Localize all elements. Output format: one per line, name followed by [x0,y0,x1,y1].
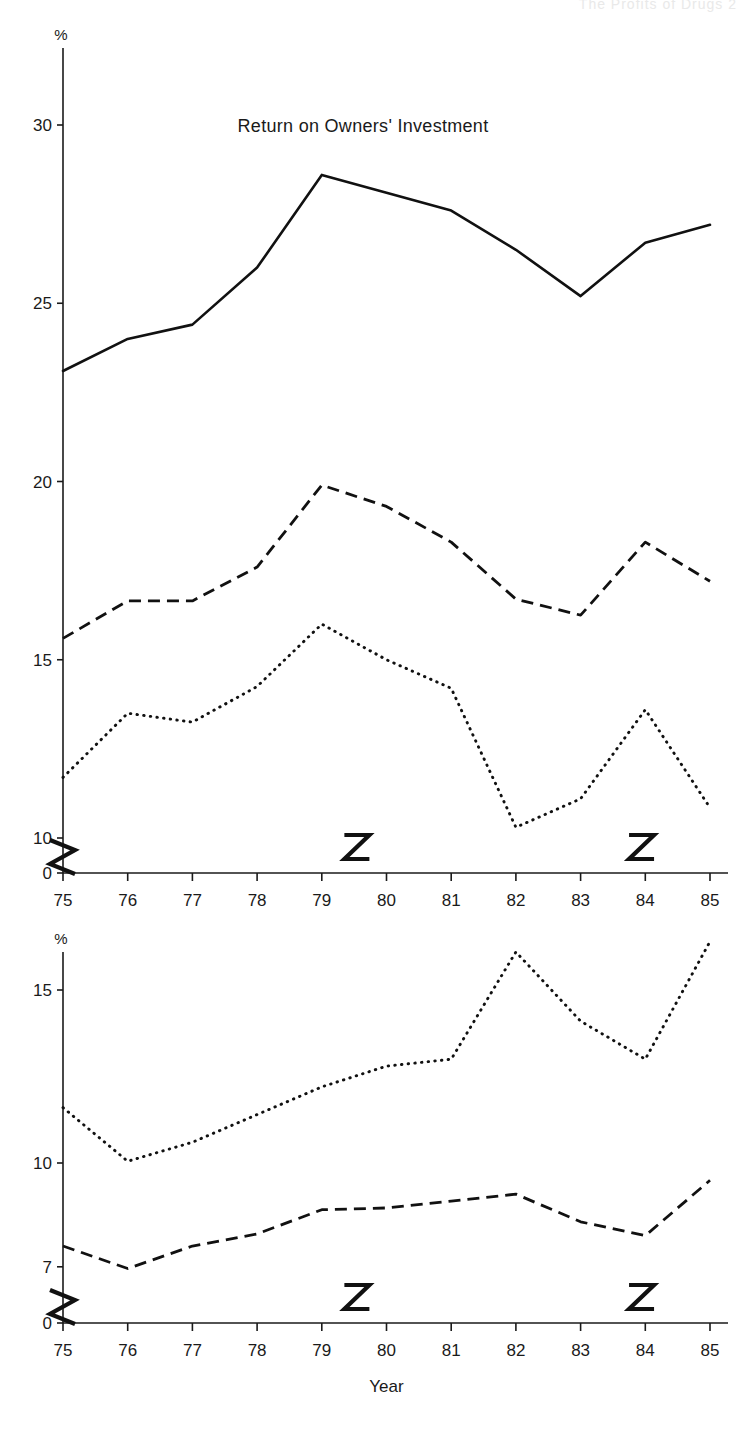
x-tick-label: 85 [701,1341,720,1360]
chart-bottom: %1510707576777879808182838485Year [0,930,755,1447]
y-axis-break-icon [50,840,75,874]
x-axis-break-icon [344,835,369,859]
y-tick-label: 25 [33,294,52,313]
x-axis-title: Year [369,1377,404,1396]
series-line-dotted [63,942,710,1162]
x-tick-label: 76 [118,1341,137,1360]
x-axis-title: Year [369,927,404,928]
x-tick-label: 77 [183,891,202,910]
x-tick-label: 84 [636,1341,655,1360]
x-tick-label: 83 [571,1341,590,1360]
y-tick-label: 20 [33,473,52,492]
x-tick-label: 78 [248,891,267,910]
y-tick-label: 7 [43,1258,52,1277]
x-tick-label: 81 [442,891,461,910]
chart-top: %302520151007576777879808182838485YearRe… [0,18,755,928]
y-tick-label: 30 [33,116,52,135]
x-tick-label: 80 [377,1341,396,1360]
y-axis-break-icon [50,1290,75,1324]
page: The Profits of Drugs 2 %3025201510075767… [0,0,755,1447]
y-tick-label: 10 [33,829,52,848]
y-tick-label: 0 [43,864,52,883]
chart-bottom-canvas: %1510707576777879808182838485Year [0,930,755,1447]
y-axis-unit-label: % [54,26,67,43]
chart-top-canvas: %302520151007576777879808182838485YearRe… [0,18,755,928]
x-tick-label: 85 [701,891,720,910]
chart-title: Return on Owners' Investment [238,116,489,136]
series-line-dashed [63,485,710,638]
x-tick-label: 81 [442,1341,461,1360]
x-axis-break-icon [629,835,654,859]
x-axis-break-icon [629,1285,654,1309]
x-tick-label: 79 [312,891,331,910]
x-tick-label: 82 [506,1341,525,1360]
x-tick-label: 79 [312,1341,331,1360]
x-tick-label: 84 [636,891,655,910]
x-tick-label: 77 [183,1341,202,1360]
x-tick-label: 82 [506,891,525,910]
running-head: The Profits of Drugs 2 [579,0,737,12]
x-tick-label: 76 [118,891,137,910]
y-tick-label: 0 [43,1314,52,1333]
y-axis-unit-label: % [54,930,67,947]
x-tick-label: 83 [571,891,590,910]
y-tick-label: 15 [33,981,52,1000]
x-axis-break-icon [344,1285,369,1309]
y-tick-label: 15 [33,651,52,670]
x-tick-label: 75 [54,891,73,910]
x-tick-label: 75 [54,1341,73,1360]
series-line-dashed [63,1180,710,1268]
x-tick-label: 80 [377,891,396,910]
y-tick-label: 10 [33,1154,52,1173]
series-line-dotted [63,624,710,827]
x-tick-label: 78 [248,1341,267,1360]
series-line-solid [63,175,710,371]
